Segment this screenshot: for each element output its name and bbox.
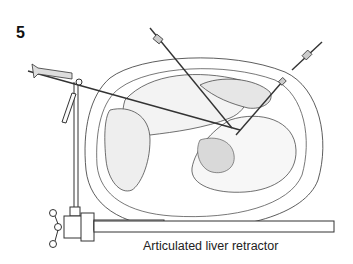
figure-caption: Articulated liver retractor [143, 239, 278, 253]
scope-eyepiece [32, 64, 72, 79]
table-rail [94, 221, 334, 232]
retractor-arm [62, 79, 82, 212]
surgical-illustration [0, 0, 353, 264]
left-lobe [105, 109, 150, 191]
